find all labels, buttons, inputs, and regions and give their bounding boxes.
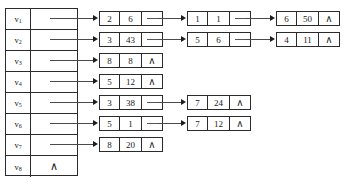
arrowhead-icon xyxy=(181,120,186,126)
caption-text xyxy=(4,0,154,3)
vertex-label-v3: v3 xyxy=(6,51,31,71)
arrowhead-icon xyxy=(93,99,98,105)
link-dash-icon xyxy=(147,102,158,103)
node-vertex-field: 8 xyxy=(100,138,120,151)
connector-line-v1-1 xyxy=(158,18,182,19)
node-vertex-field: 6 xyxy=(277,12,297,25)
vertex-null-marker-v8: ∧ xyxy=(31,156,77,177)
null-marker-icon: ∧ xyxy=(148,140,155,150)
connector-line-v2 xyxy=(50,39,94,40)
node-vertex-field: 4 xyxy=(277,33,297,46)
table-row: v1 xyxy=(6,9,77,30)
table-row: v3 xyxy=(6,51,77,72)
node-weight-field: 12 xyxy=(120,75,142,88)
list-node-v6-0: 5 1 xyxy=(99,116,163,131)
arrowhead-icon xyxy=(93,141,98,147)
node-null-field: ∧ xyxy=(142,138,162,151)
node-null-field: ∧ xyxy=(230,96,250,109)
node-null-field: ∧ xyxy=(142,54,162,67)
connector-line-v4 xyxy=(50,81,94,82)
vertex-label-subscript: 2 xyxy=(19,39,22,45)
node-weight-field: 38 xyxy=(120,96,142,109)
arrowhead-icon xyxy=(181,99,186,105)
table-row: v8 ∧ xyxy=(6,156,77,177)
connector-line-v6-1 xyxy=(158,123,182,124)
list-node-v1-0: 2 6 xyxy=(99,11,163,26)
connector-line-v5 xyxy=(50,102,94,103)
link-dash-icon xyxy=(147,18,158,19)
vertex-label-subscript: 4 xyxy=(19,81,22,87)
arrowhead-icon xyxy=(181,15,186,21)
connector-line-v2-1 xyxy=(158,39,182,40)
vertex-label-v4: v4 xyxy=(6,72,31,92)
list-node-v4-0: 5 12 ∧ xyxy=(99,74,163,89)
connector-line-v3 xyxy=(50,60,94,61)
node-vertex-field: 7 xyxy=(188,96,208,109)
node-vertex-field: 2 xyxy=(100,12,120,25)
list-node-v6-1: 7 12 ∧ xyxy=(187,116,251,131)
arrowhead-icon xyxy=(270,15,275,21)
null-marker-icon: ∧ xyxy=(236,119,243,129)
connector-line-v2-2 xyxy=(246,39,271,40)
node-null-field: ∧ xyxy=(230,117,250,130)
link-dash-icon xyxy=(147,123,158,124)
node-vertex-field: 8 xyxy=(100,54,120,67)
table-row: v4 xyxy=(6,72,77,93)
node-null-field: ∧ xyxy=(142,75,162,88)
node-weight-field: 43 xyxy=(120,33,142,46)
null-marker-icon: ∧ xyxy=(325,35,332,45)
node-vertex-field: 5 xyxy=(188,33,208,46)
node-weight-field: 6 xyxy=(120,12,142,25)
node-weight-field: 50 xyxy=(297,12,319,25)
node-vertex-field: 5 xyxy=(100,75,120,88)
vertex-label-subscript: 5 xyxy=(19,102,22,108)
vertex-label-v8: v8 xyxy=(6,156,31,177)
node-weight-field: 6 xyxy=(208,33,230,46)
node-weight-field: 1 xyxy=(120,117,142,130)
node-weight-field: 11 xyxy=(297,33,319,46)
list-node-v2-0: 3 43 xyxy=(99,32,163,47)
list-node-v7-0: 8 20 ∧ xyxy=(99,137,163,152)
connector-line-v1 xyxy=(50,18,94,19)
node-vertex-field: 3 xyxy=(100,96,120,109)
vertex-label-v6: v6 xyxy=(6,114,31,134)
node-vertex-field: 1 xyxy=(188,12,208,25)
arrowhead-icon xyxy=(93,120,98,126)
connector-line-v1-2 xyxy=(246,18,271,19)
list-node-v3-0: 8 8 ∧ xyxy=(99,53,163,68)
arrowhead-icon xyxy=(93,78,98,84)
node-weight-field: 24 xyxy=(208,96,230,109)
vertex-label-v1: v1 xyxy=(6,9,31,29)
vertex-label-subscript: 3 xyxy=(19,60,22,66)
table-row: v7 xyxy=(6,135,77,156)
list-node-v1-1: 1 1 xyxy=(187,11,251,26)
link-dash-icon xyxy=(147,39,158,40)
list-node-v2-1: 5 6 xyxy=(187,32,251,47)
node-vertex-field: 3 xyxy=(100,33,120,46)
table-row: v5 xyxy=(6,93,77,114)
connector-line-v7 xyxy=(50,144,94,145)
node-null-field: ∧ xyxy=(319,33,339,46)
link-dash-icon xyxy=(235,18,246,19)
connector-line-v5-1 xyxy=(158,102,182,103)
list-node-v1-2: 6 50 ∧ xyxy=(276,11,340,26)
adjacency-list-diagram: v1 v2 v3 v4 v5 xyxy=(0,0,348,185)
node-weight-field: 12 xyxy=(208,117,230,130)
connector-line-v6 xyxy=(50,123,94,124)
list-node-v2-2: 4 11 ∧ xyxy=(276,32,340,47)
null-marker-icon: ∧ xyxy=(325,14,332,24)
list-node-v5-1: 7 24 ∧ xyxy=(187,95,251,110)
vertex-table: v1 v2 v3 v4 v5 xyxy=(5,8,78,176)
null-marker-icon: ∧ xyxy=(236,98,243,108)
null-marker-icon: ∧ xyxy=(148,77,155,87)
table-row: v6 xyxy=(6,114,77,135)
node-weight-field: 1 xyxy=(208,12,230,25)
node-weight-field: 20 xyxy=(120,138,142,151)
vertex-label-subscript: 1 xyxy=(19,18,22,24)
table-row: v2 xyxy=(6,30,77,51)
vertex-label-v5: v5 xyxy=(6,93,31,113)
node-vertex-field: 7 xyxy=(188,117,208,130)
vertex-label-subscript: 7 xyxy=(19,144,22,150)
vertex-label-subscript: 6 xyxy=(19,123,22,129)
node-weight-field: 8 xyxy=(120,54,142,67)
